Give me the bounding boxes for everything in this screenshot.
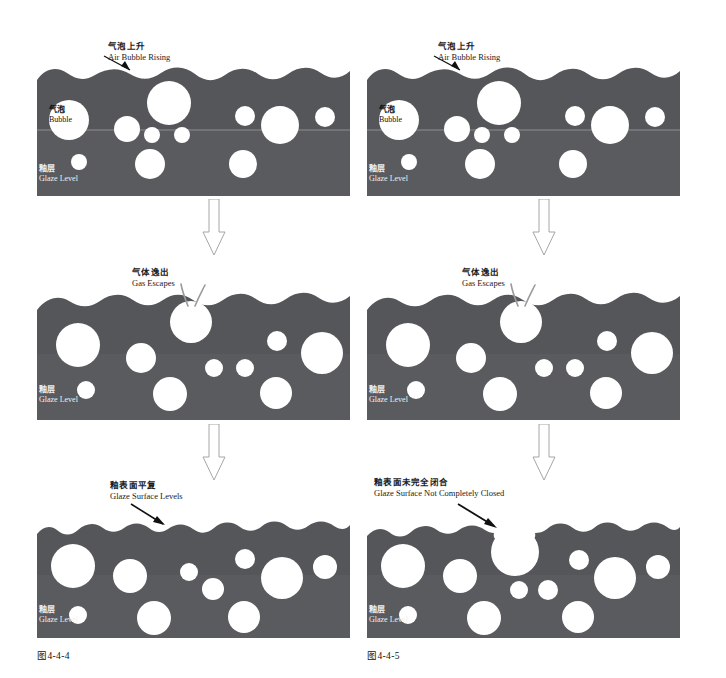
panel-right-stage-3 [367,512,680,638]
callout-gas-escapes-left: 气体逸出 Gas Escapes [132,268,175,289]
glaze-label-left-3: 釉层 Glaze Level [39,605,78,624]
pointer-glaze-surface-levels-left [127,500,187,532]
bubble-label-right-1: 气泡 Bubble [379,105,402,124]
flow-arrow-right-2-3 [531,424,557,482]
flow-arrow-right-1-2 [531,199,557,257]
glaze-label-left-2: 釉层 Glaze Level [39,385,78,404]
panel-right-stage-1 [367,64,680,196]
glaze-label-right-3: 釉层 Glaze Level [369,605,408,624]
pointer-air-bubble-rising-left [100,50,150,76]
pointer-glaze-surface-not-closed-right [454,500,520,536]
callout-gas-escapes-right: 气体逸出 Gas Escapes [462,268,505,289]
callout-glaze-surface-not-closed-right: 釉表面未完全闭合 Glaze Surface Not Completely Cl… [374,478,504,499]
panel-right-stage-2 [367,288,680,420]
bubble-label-left-1: 气泡 Bubble [49,105,72,124]
diagram-column-right: 气泡上升 Air Bubble Rising [350,0,690,678]
glaze-bubble-diagram: 气泡上升 Air Bubble Rising [0,0,726,678]
glaze-label-right-2: 釉层 Glaze Level [369,385,408,404]
pointer-air-bubble-rising-right [430,50,480,76]
callout-glaze-surface-levels-left: 釉表面平复 Glaze Surface Levels [110,481,183,502]
glaze-label-left-1: 釉层 Glaze Level [39,164,78,183]
glaze-label-right-1: 釉层 Glaze Level [369,164,408,183]
panel-left-stage-3 [37,512,350,638]
flow-arrow-left-1-2 [201,199,227,257]
figure-caption-right: 图4-4-5 [367,648,400,662]
panel-left-stage-2 [37,288,350,420]
flow-arrow-left-2-3 [201,424,227,482]
figure-caption-left: 图4-4-4 [37,648,70,662]
panel-left-stage-1 [37,64,350,196]
diagram-column-left: 气泡上升 Air Bubble Rising [20,0,360,678]
